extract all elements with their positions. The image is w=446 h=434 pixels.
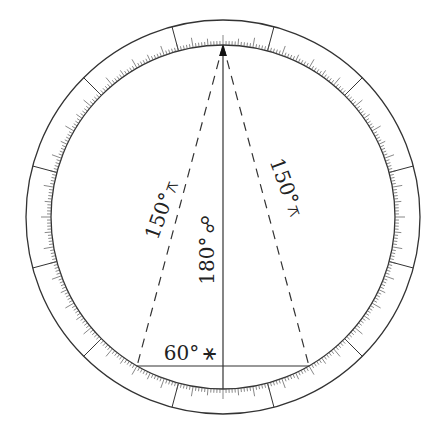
degree-tick <box>84 109 87 111</box>
degree-tick <box>322 70 326 76</box>
degree-tick <box>199 387 200 391</box>
degree-tick <box>304 369 306 373</box>
degree-tick <box>386 273 390 274</box>
degree-tick <box>66 295 70 297</box>
degree-tick <box>314 68 316 71</box>
degree-tick <box>72 126 75 128</box>
degree-tick <box>340 343 343 346</box>
degree-tick <box>359 109 362 111</box>
degree-tick <box>147 373 150 379</box>
degree-tick <box>391 180 395 181</box>
degree-tick <box>82 111 85 113</box>
degree-tick <box>183 385 184 389</box>
degree-tick <box>50 171 57 173</box>
degree-tick <box>247 387 248 391</box>
degree-tick <box>180 384 181 388</box>
degree-tick <box>115 78 117 81</box>
degree-tick <box>55 267 59 268</box>
degree-tick <box>57 160 61 161</box>
degree-tick <box>146 59 148 63</box>
degree-tick <box>174 382 175 386</box>
degree-tick <box>385 276 394 279</box>
degree-tick <box>392 185 402 187</box>
degree-tick <box>388 168 392 169</box>
degree-tick <box>349 97 352 100</box>
degree-tick <box>380 287 384 289</box>
degree-tick <box>375 298 379 300</box>
degree-tick <box>75 121 78 123</box>
degree-tick <box>74 308 77 310</box>
degree-tick <box>74 124 77 126</box>
degree-tick <box>247 43 248 47</box>
degree-tick <box>319 71 321 74</box>
degree-tick <box>287 54 288 58</box>
degree-tick <box>60 151 64 152</box>
degree-tick <box>120 358 124 364</box>
degree-tick <box>191 38 193 48</box>
degree-tick <box>366 313 369 315</box>
degree-tick <box>59 154 63 155</box>
degree-tick <box>364 114 370 118</box>
degree-tick <box>120 356 122 359</box>
degree-tick <box>195 43 196 47</box>
degree-tick <box>146 372 148 376</box>
degree-tick <box>81 318 84 320</box>
degree-tick <box>353 330 356 333</box>
label-vertical-180: 180°☍ <box>195 215 219 284</box>
degree-tick <box>253 386 255 396</box>
degree-tick <box>106 78 112 86</box>
degree-tick <box>351 332 354 335</box>
degree-tick <box>108 84 111 87</box>
degree-tick <box>138 63 140 66</box>
degree-tick <box>132 364 134 367</box>
degree-tick <box>132 66 134 69</box>
degree-tick <box>56 163 60 164</box>
degree-tick <box>68 298 72 300</box>
degree-tick <box>50 250 54 251</box>
degree-tick <box>77 313 80 315</box>
degree-tick <box>345 339 350 344</box>
degree-tick <box>331 80 334 83</box>
degree-tick <box>250 43 251 47</box>
degree-tick <box>322 358 326 364</box>
degree-tick <box>353 102 356 105</box>
degree-tick <box>50 262 57 264</box>
degree-tick <box>82 321 85 323</box>
degree-tick <box>62 145 66 147</box>
label-left-150: 150°⚻ <box>140 177 183 243</box>
degree-tick <box>160 53 161 57</box>
degree-tick <box>186 385 187 389</box>
degree-tick <box>287 376 288 380</box>
degree-tick <box>262 385 263 389</box>
degree-tick <box>183 46 184 50</box>
degree-tick <box>290 375 292 379</box>
degree-tick <box>312 66 314 69</box>
degree-tick <box>362 318 365 320</box>
degree-tick <box>381 284 385 286</box>
degree-tick <box>50 183 54 184</box>
degree-tick <box>393 241 397 242</box>
degree-tick <box>76 114 82 118</box>
degree-tick <box>373 300 376 302</box>
degree-tick <box>161 379 164 388</box>
degree-tick <box>327 76 329 79</box>
degree-tick <box>375 134 379 136</box>
degree-tick <box>391 256 395 257</box>
degree-tick <box>86 325 89 328</box>
degree-tick <box>51 253 55 254</box>
degree-tick <box>130 363 132 366</box>
svg-text:180°☍: 180°☍ <box>195 215 219 284</box>
degree-tick <box>386 160 390 161</box>
degree-tick <box>382 281 386 282</box>
degree-tick <box>52 177 56 178</box>
degree-tick <box>92 99 95 102</box>
degree-tick <box>392 183 396 184</box>
degree-tick <box>103 88 106 91</box>
svg-text:150°⚻: 150°⚻ <box>140 177 183 243</box>
degree-tick <box>385 155 394 158</box>
degree-tick <box>349 334 352 337</box>
degree-tick <box>177 44 179 51</box>
degree-tick <box>298 59 300 63</box>
right-degree-text: 150° <box>265 155 304 208</box>
degree-tick <box>381 148 385 150</box>
